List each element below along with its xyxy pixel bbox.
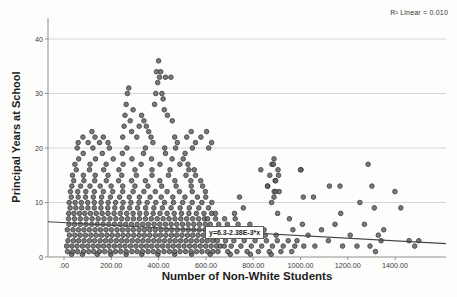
data-point bbox=[183, 195, 188, 200]
data-point bbox=[190, 189, 195, 194]
data-point bbox=[79, 200, 84, 205]
data-point bbox=[379, 238, 384, 243]
data-point bbox=[311, 195, 316, 200]
data-point bbox=[106, 222, 111, 227]
data-point bbox=[156, 249, 161, 254]
data-point bbox=[259, 168, 264, 173]
data-point bbox=[98, 228, 103, 233]
data-point bbox=[293, 244, 298, 249]
data-point bbox=[113, 249, 118, 254]
data-point bbox=[189, 249, 194, 254]
data-point bbox=[186, 162, 191, 167]
data-point bbox=[70, 173, 75, 178]
data-point bbox=[114, 238, 119, 243]
data-point bbox=[158, 69, 163, 74]
data-point bbox=[370, 184, 375, 189]
data-point bbox=[129, 178, 134, 183]
data-point bbox=[109, 228, 114, 233]
data-point bbox=[213, 217, 218, 222]
data-point bbox=[281, 244, 286, 249]
data-point bbox=[139, 244, 144, 249]
data-point bbox=[125, 91, 130, 96]
data-point bbox=[119, 238, 124, 243]
data-point bbox=[190, 200, 195, 205]
data-point bbox=[162, 249, 167, 254]
regression-equation-label: y=6.3-2.38E-3*x bbox=[205, 226, 264, 239]
data-point bbox=[75, 146, 80, 151]
data-point bbox=[376, 233, 381, 238]
data-point bbox=[81, 173, 86, 178]
x-tick-label: 1000.00 bbox=[288, 261, 314, 270]
data-point bbox=[106, 211, 111, 216]
data-point bbox=[93, 228, 98, 233]
data-point bbox=[399, 206, 404, 211]
data-point bbox=[139, 113, 144, 118]
data-point bbox=[146, 129, 151, 134]
data-point bbox=[66, 238, 71, 243]
data-point bbox=[121, 233, 126, 238]
data-point bbox=[101, 168, 106, 173]
data-point bbox=[146, 238, 151, 243]
x-tick-label: .00 bbox=[59, 261, 69, 270]
data-point bbox=[92, 238, 97, 243]
data-point bbox=[162, 108, 167, 113]
data-point bbox=[128, 119, 133, 124]
data-point bbox=[256, 249, 261, 254]
plot-area: .00200.00400.00600.00800.001000.001200.0… bbox=[0, 0, 457, 297]
data-point bbox=[209, 140, 214, 145]
data-point bbox=[151, 211, 156, 216]
data-point bbox=[295, 238, 300, 243]
data-point bbox=[165, 189, 170, 194]
data-point bbox=[155, 80, 160, 85]
data-point bbox=[65, 228, 70, 233]
data-point bbox=[167, 249, 172, 254]
y-tick-label: 0 bbox=[39, 253, 43, 262]
data-point bbox=[131, 228, 136, 233]
data-point bbox=[189, 238, 194, 243]
y-tick-label: 40 bbox=[35, 35, 43, 44]
data-point bbox=[92, 189, 97, 194]
data-point bbox=[232, 238, 237, 243]
data-point bbox=[178, 162, 183, 167]
data-point bbox=[153, 189, 158, 194]
data-point bbox=[88, 211, 93, 216]
data-point bbox=[187, 168, 192, 173]
data-point bbox=[229, 244, 234, 249]
data-point bbox=[189, 178, 194, 183]
data-point bbox=[99, 195, 104, 200]
data-point bbox=[264, 238, 269, 243]
data-point bbox=[129, 129, 134, 134]
data-point bbox=[69, 195, 74, 200]
data-point bbox=[130, 238, 135, 243]
data-point bbox=[173, 178, 178, 183]
data-point bbox=[83, 233, 88, 238]
data-point bbox=[142, 119, 147, 124]
data-point bbox=[249, 244, 254, 249]
data-point bbox=[84, 189, 89, 194]
data-point bbox=[163, 222, 168, 227]
data-point bbox=[193, 173, 198, 178]
data-point bbox=[76, 140, 81, 145]
data-point bbox=[179, 211, 184, 216]
data-point bbox=[200, 249, 205, 254]
data-point bbox=[161, 217, 166, 222]
data-point bbox=[176, 244, 181, 249]
data-point bbox=[151, 249, 156, 254]
data-point bbox=[145, 200, 150, 205]
data-point bbox=[192, 168, 197, 173]
data-point bbox=[170, 157, 175, 162]
data-point bbox=[97, 140, 102, 145]
data-point bbox=[117, 195, 122, 200]
data-point bbox=[286, 238, 291, 243]
data-point bbox=[225, 249, 230, 254]
data-point bbox=[152, 206, 157, 211]
data-point bbox=[271, 162, 276, 167]
data-point bbox=[96, 244, 101, 249]
data-point bbox=[150, 173, 155, 178]
data-point bbox=[200, 200, 205, 205]
data-point bbox=[216, 249, 221, 254]
data-point bbox=[348, 233, 353, 238]
data-point bbox=[203, 195, 208, 200]
data-point bbox=[196, 233, 201, 238]
data-point bbox=[232, 211, 237, 216]
